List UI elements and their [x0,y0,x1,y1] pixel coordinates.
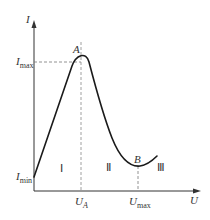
region-1-label: Ⅰ [60,163,63,174]
y-axis-label: I [26,14,30,25]
region-3-label: Ⅲ [157,162,165,173]
imin-label-sub: min [20,176,32,185]
ua-label: UA [75,196,88,210]
point-b-label: B [134,154,141,165]
x-axis-label: U [190,195,198,206]
iu-curve-diagram [0,0,210,220]
umax-label-sub: max [137,201,151,210]
x-axis-arrow-icon [193,189,201,194]
umax-label: Umax [129,196,151,210]
imax-label-sub: max [20,61,34,70]
ua-label-main: U [75,195,83,207]
region-2-label: Ⅱ [106,162,111,173]
y-axis-arrow-icon [32,20,37,28]
point-a-label: A [73,44,80,55]
ua-label-sub: A [83,201,88,210]
imin-label: Imin [16,171,32,185]
umax-label-main: U [129,195,137,207]
imax-label: Imax [16,56,33,70]
